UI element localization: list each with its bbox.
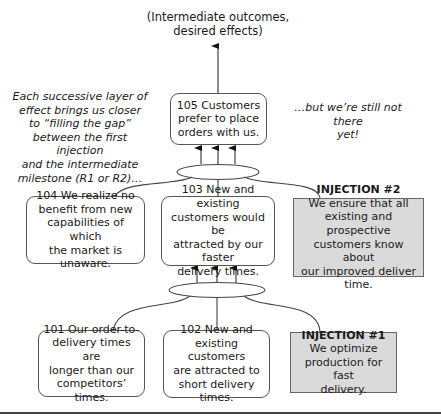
note-line: …but we’re still not there [280,101,416,128]
node-text: attracted by our faster [165,238,271,265]
effect-node-104: 104 We realize no benefit from new capab… [26,196,145,264]
note-line: effect brings us closer [10,104,150,118]
note-filling-the-gap: Each successive layer of effect brings u… [10,90,150,185]
effect-node-102: 102 New and existing customers are attra… [163,330,270,398]
node-text: capabilities of which [30,216,141,243]
node-text: benefit from new [30,203,141,217]
node-text: customers would be [165,211,271,238]
note-line: between the first injection [10,131,150,158]
node-text: competitors’ times. [42,377,141,404]
node-text: are attracted to [167,364,266,378]
node-text: delivery times are [42,336,141,363]
and-junction-lower [169,283,265,298]
injection-text: We optimize [294,342,393,356]
outcomes-label-line: (Intermediate outcomes, [140,10,296,24]
node-text: orders with us. [174,126,263,140]
injection-text: our improved deliver time. [297,265,420,292]
node-text: 102 New and [167,323,266,337]
injection-text: existing and prospective [297,210,420,237]
bottom-divider [0,412,441,414]
note-line: and the intermediate [10,158,150,172]
note-line: Each successive layer of [10,90,150,104]
injection-1: INJECTION #1 We optimize production for … [290,332,397,393]
node-text: 105 Customers [174,99,263,113]
node-text: the market is unaware. [30,244,141,271]
node-text: 101 Our order-to- [42,323,141,337]
and-junction-upper [177,165,259,180]
node-text: existing customers [167,337,266,364]
injection-2: INJECTION #2 We ensure that all existing… [293,198,424,277]
injection-text: customers know about [297,238,420,265]
outcomes-label: (Intermediate outcomes, desired effects) [140,10,296,38]
node-text: delivery times. [165,265,271,279]
note-line: milestone (R1 or R2)… [10,172,150,186]
effect-node-101: 101 Our order-to- delivery times are lon… [38,330,145,397]
node-text: prefer to place [174,112,263,126]
node-text: 104 We realize no [30,189,141,203]
note-line: to “filling the gap” [10,117,150,131]
note-line: yet! [280,128,416,142]
outcomes-label-line: desired effects) [140,24,296,38]
node-text: longer than our [42,364,141,378]
effect-node-103: 103 New and existing customers would be … [161,196,275,266]
note-not-there-yet: …but we’re still not there yet! [280,101,416,142]
injection-text: production for fast [294,356,393,383]
injection-text: delivery. [294,383,393,397]
node-text: short delivery times. [167,378,266,405]
injection-title: INJECTION #1 [294,329,393,343]
injection-title: INJECTION #2 [297,183,420,197]
injection-text: We ensure that all [297,197,420,211]
effect-node-105: 105 Customers prefer to place orders wit… [170,93,267,145]
node-text: 103 New and existing [165,183,271,210]
